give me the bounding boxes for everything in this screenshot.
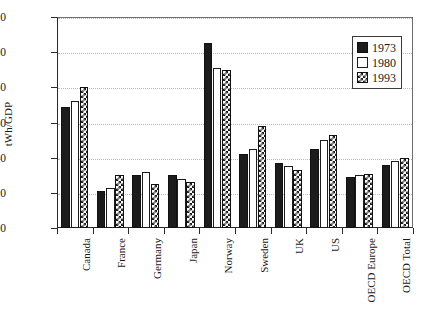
y-axis-tick-label: 0.60 [0,117,6,129]
bar [80,87,89,228]
x-axis-tick-mark [93,228,94,234]
bar [61,107,70,228]
legend: 197319801993 [352,36,402,89]
x-axis-tick-mark [128,228,129,234]
bar-group [271,17,307,228]
x-axis-tick-mark [164,228,165,234]
legend-swatch-icon [357,72,368,83]
bar [355,175,364,228]
x-axis-tick-mark [271,228,272,234]
bar [204,43,213,228]
bar-group [93,17,129,228]
y-axis-tick-label: 0.40 [0,152,6,164]
bar [382,165,391,228]
bar-group [164,17,200,228]
legend-item: 1993 [357,70,396,85]
legend-item: 1973 [357,40,396,55]
bar [391,161,400,228]
x-axis-tick-mark [235,228,236,234]
bar [258,126,267,228]
bar [71,101,80,228]
x-axis-tick-label: Japan [187,238,199,263]
x-axis-tick-mark [57,228,58,234]
x-axis-tick-label: Norway [222,238,234,273]
x-axis-tick-mark [377,228,378,234]
bar-group [128,17,164,228]
x-axis-tick-mark [342,228,343,234]
bar [213,68,222,228]
bar [249,149,258,228]
bar [132,175,141,228]
bar [168,175,177,228]
x-axis-tick-mark [413,228,414,234]
bar [142,172,151,228]
bar-group [235,17,271,228]
bar-group [306,17,342,228]
x-axis-tick-label: France [115,238,127,268]
legend-label: 1980 [372,57,396,69]
x-axis-tick-mark [199,228,200,234]
bar-group [199,17,235,228]
bar [310,149,319,228]
legend-swatch-icon [357,57,368,68]
bar [222,70,231,228]
x-axis-tick-label: Sweden [258,238,270,273]
legend-swatch-icon [357,42,368,53]
bar [186,182,195,228]
bar [346,177,355,228]
x-axis-tick-label: Canada [80,238,92,271]
bar [177,179,186,228]
x-axis-tick-label: OECD Total [400,238,412,293]
bar [115,175,124,228]
bar [364,174,373,229]
y-axis-tick-label: 1.00 [0,46,6,58]
x-axis-tick-label: UK [293,238,305,254]
bar [275,163,284,228]
bar [284,166,293,228]
x-axis-tick-label: OECD Europe [365,238,377,302]
y-axis-tick-label: 0.80 [0,81,6,93]
legend-item: 1980 [357,55,396,70]
y-axis-tick-label: 1.20 [0,11,6,23]
bar [293,170,302,228]
x-axis-tick-label: US [329,238,341,252]
bar-group [57,17,93,228]
y-axis-tick-label: 0.20 [0,187,6,199]
legend-label: 1993 [372,72,396,84]
bar-chart: tWh/GDP 0.000.200.400.600.801.001.20 Can… [0,0,425,309]
bar [97,191,106,228]
y-axis-tick-label: 0.00 [0,222,6,234]
x-axis-tick-mark [306,228,307,234]
x-axis-tick-label: Germany [151,238,163,279]
bar [320,140,329,228]
legend-label: 1973 [372,42,396,54]
bar [106,188,115,228]
bar [400,158,409,228]
bar [151,184,160,228]
bar [239,154,248,228]
bar [329,135,338,228]
